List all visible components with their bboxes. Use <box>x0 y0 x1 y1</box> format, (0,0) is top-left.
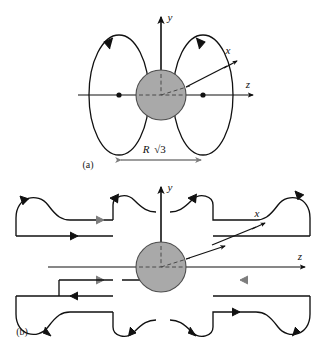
panel-a: z y x R √3 (a) <box>78 11 253 171</box>
arrowhead-top-left-return <box>70 232 78 240</box>
field-line-bottom-left-lower <box>16 296 113 334</box>
field-line-top-left-inner-lobe <box>113 196 156 220</box>
arrowhead-bottom-right-gray <box>240 276 248 284</box>
arrowhead-bottom-right-inner <box>188 327 196 336</box>
dimension-label-symbol: R <box>142 143 150 155</box>
field-line-top-right-outer-lobe <box>256 198 310 236</box>
x-axis-label-a: x <box>225 44 231 56</box>
arrowhead-bottom-left-return <box>70 292 78 300</box>
dimension-label-radical: √3 <box>154 143 166 155</box>
field-line-top-right <box>170 191 310 236</box>
panel-b: z y x (b) <box>16 181 310 338</box>
field-line-bottom-left <box>16 276 156 336</box>
arrowhead-top-left-inner <box>110 194 119 203</box>
focus-dot-left-a <box>116 92 121 97</box>
field-line-top-left <box>16 194 156 240</box>
dimension-arrow-a: R √3 <box>121 143 201 160</box>
y-axis-label-a: y <box>167 11 173 23</box>
dimension-label: R √3 <box>142 143 167 155</box>
physics-figure: z y x R √3 (a) <box>0 0 317 354</box>
z-axis-label-b: z <box>297 250 303 262</box>
field-line-bottom-right-inner-lobe <box>170 312 256 336</box>
panel-a-label: (a) <box>82 159 93 171</box>
x-axis-line-a <box>186 66 227 87</box>
field-line-bottom-right-outer-lobe <box>256 296 310 334</box>
field-line-bottom-right <box>170 276 310 336</box>
x-axis-arrow-a <box>224 61 237 68</box>
panel-b-label: (b) <box>16 326 28 338</box>
z-axis-label-a: z <box>245 78 251 90</box>
field-loop-left-arrowhead <box>104 38 113 49</box>
arrowhead-bottom-right-forward <box>232 308 240 316</box>
x-axis-lower-ray-b <box>186 246 225 259</box>
field-loop-right-arrowhead <box>196 38 205 49</box>
x-axis-label-b: x <box>254 207 260 219</box>
arrowhead-bottom-left-inner <box>128 327 136 336</box>
x-axis-arrow-b <box>252 223 265 229</box>
field-line-top-right-inner-lobe <box>170 196 256 220</box>
y-axis-label-b: y <box>167 181 173 193</box>
focus-dot-right-a <box>200 92 205 97</box>
arrowhead-top-left-gray <box>96 216 104 224</box>
